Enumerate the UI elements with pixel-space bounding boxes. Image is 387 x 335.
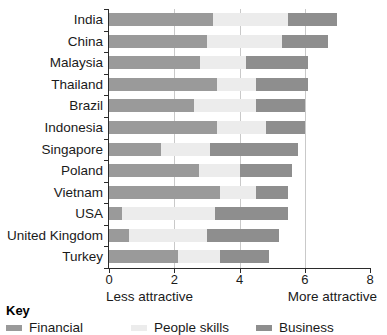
legend-swatch <box>6 325 22 331</box>
bar-row: Thailand <box>109 74 370 96</box>
bar-row: Poland <box>109 160 370 182</box>
stacked-bar <box>109 164 292 177</box>
bar-segment-people-skills <box>217 78 256 91</box>
stacked-bar <box>109 229 279 242</box>
y-axis-tick <box>104 246 109 247</box>
y-axis-tick <box>104 52 109 53</box>
bar-row: Vietnam <box>109 182 370 204</box>
plot-area: IndiaChinaMalaysiaThailandBrazilIndonesi… <box>109 9 370 268</box>
bar-segment-financial <box>109 229 129 242</box>
x-axis-tick-label: 4 <box>220 272 260 288</box>
bar-segment-people-skills <box>207 35 282 48</box>
stacked-bar-chart: IndiaChinaMalaysiaThailandBrazilIndonesi… <box>0 0 387 335</box>
y-axis-tick <box>104 139 109 140</box>
stacked-bar <box>109 207 288 220</box>
y-axis-label: Vietnam <box>54 182 103 204</box>
bar-segment-financial <box>109 121 217 134</box>
bar-row: USA <box>109 203 370 225</box>
stacked-bar <box>109 78 308 91</box>
bar-segment-business <box>256 99 305 112</box>
bar-segment-financial <box>109 143 161 156</box>
bar-segment-business <box>266 121 305 134</box>
y-axis-tick <box>104 9 109 10</box>
bar-row: Singapore <box>109 139 370 161</box>
bar-segment-business <box>207 229 279 242</box>
bar-segment-people-skills <box>194 99 256 112</box>
bar-segment-financial <box>109 164 199 177</box>
stacked-bar <box>109 13 337 26</box>
bar-segment-financial <box>109 13 213 26</box>
stacked-bar <box>109 121 305 134</box>
y-axis-label: Brazil <box>69 95 103 117</box>
y-axis-label: United Kingdom <box>7 225 103 247</box>
stacked-bar <box>109 186 288 199</box>
bar-segment-business <box>282 35 328 48</box>
bar-segment-business <box>256 186 289 199</box>
bar-segment-financial <box>109 99 194 112</box>
x-axis-tick-label: 2 <box>154 272 194 288</box>
y-axis-label: India <box>74 9 103 31</box>
bar-row: Malaysia <box>109 52 370 74</box>
y-axis-tick <box>104 182 109 183</box>
y-axis-tick <box>104 203 109 204</box>
y-axis-label: Poland <box>61 160 103 182</box>
bar-segment-people-skills <box>220 186 256 199</box>
legend-item-financial: Financial <box>6 320 83 335</box>
legend-label: Business <box>279 320 334 335</box>
bar-segment-people-skills <box>217 121 266 134</box>
stacked-bar <box>109 143 298 156</box>
bar-segment-business <box>288 13 337 26</box>
y-axis-tick <box>104 74 109 75</box>
bar-row: Brazil <box>109 95 370 117</box>
bar-row: India <box>109 9 370 31</box>
x-axis-tick-label: 6 <box>285 272 325 288</box>
stacked-bar <box>109 35 328 48</box>
bar-segment-business <box>240 164 292 177</box>
bar-segment-people-skills <box>178 250 220 263</box>
legend: FinancialPeople skillsBusiness <box>6 320 387 335</box>
legend-item-business: Business <box>256 320 334 335</box>
bar-segment-business <box>246 56 308 69</box>
bar-segment-financial <box>109 250 178 263</box>
y-axis-label: China <box>68 31 103 53</box>
bar-segment-financial <box>109 78 217 91</box>
bar-segment-business <box>220 250 269 263</box>
key-title: Key <box>6 303 30 318</box>
y-axis-label: Indonesia <box>44 117 103 139</box>
bar-segment-people-skills <box>129 229 207 242</box>
legend-label: People skills <box>154 320 229 335</box>
y-axis-tick <box>104 95 109 96</box>
annotation-less-attractive: Less attractive <box>106 289 193 304</box>
stacked-bar <box>109 99 305 112</box>
y-axis-tick <box>104 160 109 161</box>
y-axis-tick <box>104 225 109 226</box>
legend-swatch <box>256 325 272 331</box>
bar-segment-people-skills <box>213 13 288 26</box>
stacked-bar <box>109 56 308 69</box>
legend-label: Financial <box>29 320 83 335</box>
y-axis-label: Turkey <box>62 246 103 268</box>
y-axis-label: Malaysia <box>50 52 103 74</box>
bar-segment-people-skills <box>199 164 240 177</box>
y-axis-tick <box>104 268 109 269</box>
y-axis-tick <box>104 117 109 118</box>
x-axis-tick-label: 8 <box>350 272 387 288</box>
bar-segment-business <box>256 78 308 91</box>
bar-segment-people-skills <box>161 143 210 156</box>
bar-segment-financial <box>109 186 220 199</box>
annotation-more-attractive: More attractive <box>288 289 377 304</box>
bar-segment-business <box>210 143 298 156</box>
y-axis-label: USA <box>75 203 103 225</box>
bar-segment-financial <box>109 207 122 220</box>
legend-item-people-skills: People skills <box>131 320 229 335</box>
bar-segment-financial <box>109 56 200 69</box>
stacked-bar <box>109 250 269 263</box>
bar-segment-people-skills <box>200 56 246 69</box>
bar-segment-people-skills <box>122 207 215 220</box>
bar-row: Indonesia <box>109 117 370 139</box>
y-axis-label: Singapore <box>41 139 103 161</box>
bar-row: United Kingdom <box>109 225 370 247</box>
bar-row: Turkey <box>109 246 370 268</box>
bar-segment-financial <box>109 35 207 48</box>
bar-row: China <box>109 31 370 53</box>
